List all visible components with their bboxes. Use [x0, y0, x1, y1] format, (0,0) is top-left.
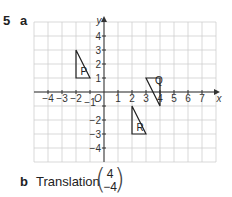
shape-label-p: P [81, 66, 88, 77]
x-tick-label: 3 [143, 93, 149, 104]
part-b-label: b [20, 174, 28, 189]
y-tick-label: −2 [90, 115, 102, 126]
y-tick-label: −3 [90, 129, 102, 140]
x-tick-label: −2 [70, 93, 82, 104]
shape-label-r: R [137, 122, 144, 133]
y-axis-arrow-icon [101, 16, 107, 22]
x-tick-label: 6 [185, 93, 191, 104]
x-tick-label: 5 [171, 93, 177, 104]
x-tick-label: 7 [199, 93, 205, 104]
x-tick-label: −4 [42, 93, 54, 104]
translation-vector: ( 4 −4 ) [97, 165, 123, 195]
x-tick-label: 2 [129, 93, 135, 104]
y-tick-label: 3 [95, 45, 101, 56]
shape-label-q: Q [155, 75, 163, 86]
y-axis-label: y [96, 15, 103, 26]
y-tick-label: 2 [95, 59, 101, 70]
y-tick-label: −4 [90, 143, 102, 154]
x-tick-label: −1 [84, 97, 96, 108]
right-paren: ) [114, 165, 125, 195]
y-tick-label: 4 [95, 31, 101, 42]
translation-label: Translation [36, 174, 100, 189]
x-axis-label: x [216, 93, 223, 104]
y-tick-label: 1 [95, 73, 101, 84]
x-tick-label: 1 [115, 93, 121, 104]
x-tick-label: −3 [56, 93, 68, 104]
